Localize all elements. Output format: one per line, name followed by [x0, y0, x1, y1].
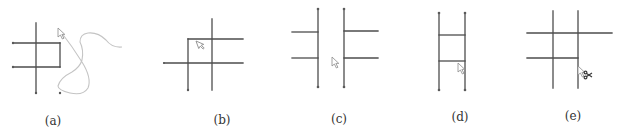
endpoint: [343, 86, 346, 89]
panel-a: (a): [12, 23, 122, 128]
endpoint: [12, 42, 14, 44]
endpoint: [464, 89, 467, 92]
figure: (a) (b) (c) (d): [0, 0, 620, 132]
freehand-stroke: [58, 32, 122, 94]
panel-b: (b): [163, 19, 243, 127]
endpoint: [343, 8, 346, 11]
endpoint: [317, 86, 320, 89]
endpoint: [187, 89, 189, 91]
arrow-cursor-icon: [332, 57, 339, 68]
panel-label-b: (b): [213, 113, 230, 127]
arrow-cursor-icon: [58, 28, 65, 39]
panel-c: (c): [292, 8, 378, 126]
endpoint: [438, 12, 441, 15]
panel-label-a: (a): [45, 114, 62, 128]
panel-label-e: (e): [565, 109, 581, 123]
endpoint: [12, 66, 14, 68]
arrow-cursor-icon: [196, 39, 205, 50]
endpoint: [317, 8, 320, 11]
panel-e: (e): [527, 11, 612, 123]
endpoint: [35, 92, 37, 94]
panel-d: (d): [438, 12, 469, 124]
endpoint: [464, 12, 467, 15]
panel-label-c: (c): [331, 112, 347, 126]
endpoint: [59, 92, 61, 94]
scissors-cursor-icon: [584, 71, 592, 79]
panel-label-d: (d): [451, 110, 468, 124]
endpoint: [438, 89, 441, 92]
endpoint: [163, 62, 165, 64]
arrow-cursor-icon: [458, 63, 465, 74]
